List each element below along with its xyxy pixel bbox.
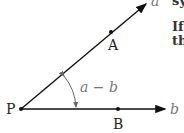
angle-label: a − b — [80, 80, 118, 94]
label-ray-b: b — [170, 102, 179, 116]
angle-arc — [64, 76, 76, 107]
label-a: A — [108, 38, 118, 52]
point-p — [19, 107, 23, 111]
angle-diagram — [0, 0, 184, 133]
label-b-point: B — [113, 117, 123, 131]
label-ray-a: a — [151, 0, 159, 8]
side-text-1: sy — [172, 0, 184, 8]
point-b — [116, 107, 120, 111]
side-text-3: th — [172, 34, 184, 48]
label-p: P — [6, 102, 15, 116]
point-a — [109, 30, 113, 34]
side-text-2: If — [172, 20, 184, 34]
